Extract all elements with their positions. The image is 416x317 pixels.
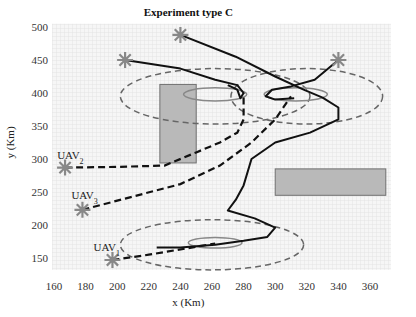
trajectory-chart: Experiment type C16018020022024026028030… [0,0,416,317]
chart-title: Experiment type C [144,6,233,18]
uav-start-star-icon [57,160,73,176]
x-tick-label: 300 [267,280,284,292]
y-tick-label: 250 [32,186,49,198]
x-tick-label: 220 [141,280,158,292]
y-tick-label: 450 [32,54,49,66]
y-tick-label: 200 [32,219,49,231]
x-tick-label: 260 [204,280,221,292]
target-star-icon [330,52,346,68]
x-axis-label: x (Km) [172,296,204,309]
x-tick-label: 200 [109,280,126,292]
y-tick-label: 500 [32,21,49,33]
target-star-icon [117,52,133,68]
y-tick-label: 400 [32,87,49,99]
uav-start-star-icon [74,202,90,218]
x-tick-label: 340 [330,280,347,292]
x-tick-label: 360 [362,280,379,292]
obstacle [275,169,386,195]
y-axis-label: y (Km) [4,126,17,158]
target-star-icon [172,27,188,43]
y-tick-label: 300 [32,153,49,165]
obstacle [160,84,196,163]
x-tick-label: 160 [46,280,63,292]
y-tick-label: 150 [32,252,49,264]
x-tick-label: 180 [77,280,94,292]
x-tick-label: 240 [172,280,189,292]
y-tick-label: 350 [32,120,49,132]
chart-container: Experiment type C16018020022024026028030… [0,0,416,317]
x-tick-label: 280 [235,280,252,292]
x-tick-label: 320 [299,280,316,292]
